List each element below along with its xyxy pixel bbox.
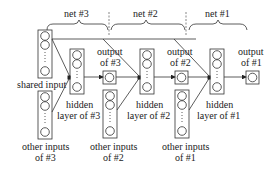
net-1-brace bbox=[189, 20, 247, 30]
output-1-node bbox=[246, 71, 259, 84]
output-2-node bbox=[175, 71, 188, 84]
junction-2 bbox=[138, 76, 141, 80]
net-2-label: net #2 bbox=[133, 8, 158, 19]
output-2-label-1: output bbox=[167, 46, 193, 57]
hidden-1-label-1: hidden bbox=[206, 99, 233, 110]
hidden-layer-3 bbox=[70, 49, 84, 94]
output-3-label-1: output bbox=[97, 46, 123, 57]
junction-1 bbox=[208, 76, 211, 80]
net-2-brace bbox=[111, 20, 185, 30]
net-3-label: net #3 bbox=[64, 8, 89, 19]
other-inputs-3-label-2: of #3 bbox=[35, 152, 56, 163]
hidden-3-label-1: hidden bbox=[66, 99, 93, 110]
other-inputs-3-label-1: other inputs bbox=[22, 141, 70, 152]
hidden-layer-1 bbox=[210, 49, 224, 94]
hidden-layer-2 bbox=[140, 49, 154, 94]
output-3-label-2: of #3 bbox=[100, 57, 121, 68]
other-inputs-2-label-1: other inputs bbox=[90, 141, 138, 152]
other-inputs-1-label-2: of #1 bbox=[175, 152, 196, 163]
output-1-label-1: output bbox=[238, 46, 264, 57]
net-1-label: net #1 bbox=[205, 8, 230, 19]
other-inputs-2-label-2: of #2 bbox=[103, 152, 124, 163]
other-inputs-1-layer bbox=[175, 77, 210, 138]
shared-input-label: shared input bbox=[17, 79, 66, 90]
output-1-label-2: of #1 bbox=[241, 57, 262, 68]
cascaded-network-diagram: net #3 net #2 net #1 shared input other bbox=[0, 0, 276, 175]
hidden-1-label-2: layer of #1 bbox=[197, 110, 240, 121]
net-3-brace bbox=[47, 20, 108, 30]
output-3-node bbox=[103, 71, 116, 84]
hidden-3-label-2: layer of #3 bbox=[57, 110, 100, 121]
hidden-2-label-1: hidden bbox=[136, 99, 163, 110]
junction-3 bbox=[68, 76, 71, 80]
other-inputs-1-label-1: other inputs bbox=[162, 141, 210, 152]
other-inputs-2-layer bbox=[103, 77, 140, 138]
hidden-2-label-2: layer of #2 bbox=[127, 110, 170, 121]
output-2-label-2: of #2 bbox=[170, 57, 191, 68]
shared-input-layer bbox=[38, 30, 52, 78]
